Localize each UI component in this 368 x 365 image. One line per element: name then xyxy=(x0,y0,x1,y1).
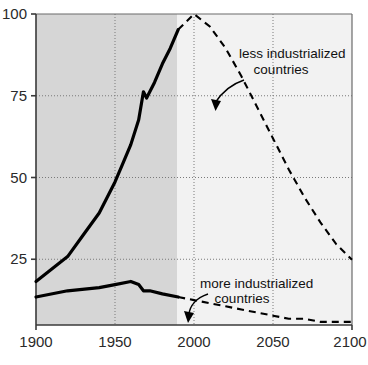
x-axis-tick-labels: 1900 1950 2000 2050 2100 xyxy=(19,333,366,350)
annotation-more-line2: countries xyxy=(215,291,270,306)
y-tick-label-100: 100 xyxy=(2,5,27,22)
x-tick-label-2000: 2000 xyxy=(177,333,210,350)
y-tick-label-75: 75 xyxy=(10,87,27,104)
chart-container: 100 75 50 25 1900 1950 2000 2050 2100 le… xyxy=(0,0,368,365)
historical-band xyxy=(36,14,177,325)
y-axis-tick-labels: 100 75 50 25 xyxy=(2,5,27,267)
annotation-more-line1: more industrialized xyxy=(200,276,313,291)
x-tick-label-2100: 2100 xyxy=(333,333,366,350)
x-tick-label-2050: 2050 xyxy=(256,333,289,350)
x-tick-label-1950: 1950 xyxy=(98,333,131,350)
annotation-less-line1: less industrialized xyxy=(239,46,346,61)
y-tick-label-25: 25 xyxy=(10,250,27,267)
population-line-chart: 100 75 50 25 1900 1950 2000 2050 2100 le… xyxy=(0,0,368,365)
y-tick-label-50: 50 xyxy=(10,169,27,186)
x-tick-label-1900: 1900 xyxy=(19,333,52,350)
annotation-less-line2: countries xyxy=(254,62,309,77)
